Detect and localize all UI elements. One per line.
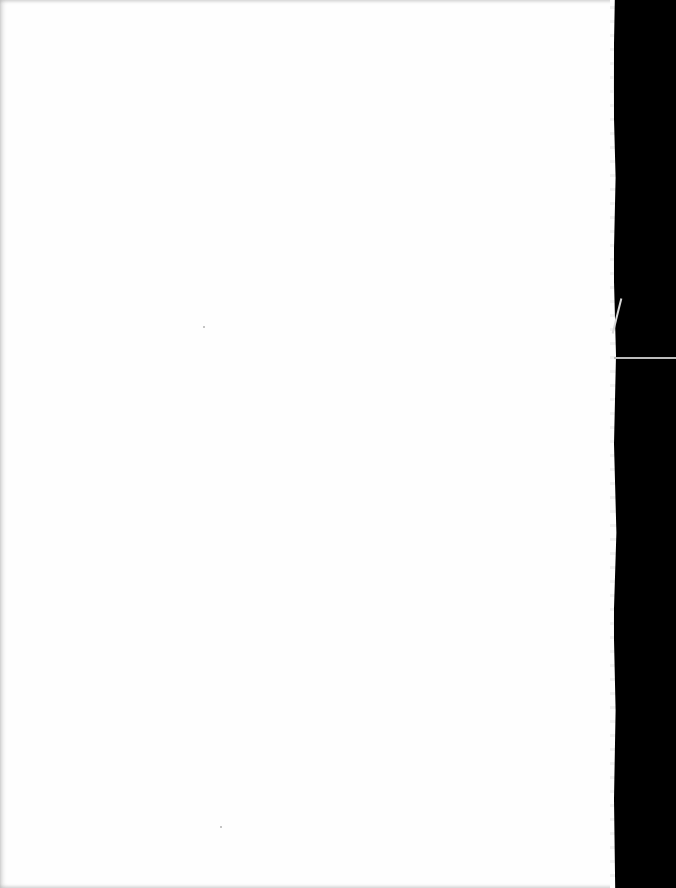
dust-speck [220,826,222,828]
scanner-edge-line [614,357,676,359]
dust-speck [203,326,205,328]
scanned-page [0,0,614,888]
